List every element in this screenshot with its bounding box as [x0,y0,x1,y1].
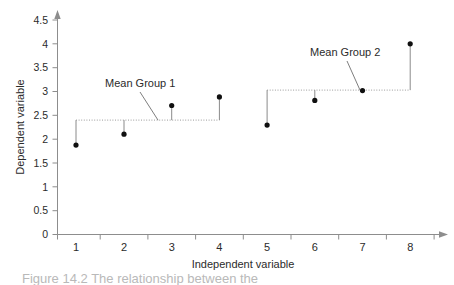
y-tick-label-0: 0 [42,228,48,240]
y-tick-marks [53,20,58,235]
data-point-8[interactable] [408,41,413,46]
annotation-leader-line-1 [140,92,158,120]
y-tick-label-1: 1 [42,181,48,193]
figure-caption: Figure 14.2 The relationship between the [22,271,258,285]
y-tick-label-4.5: 4.5 [33,14,48,26]
y-axis-title: Dependent variable [14,79,26,174]
chart-screenshot: 0 0.5 1 1.5 2 2.5 3 3.5 4 4.5 1 2 [0,0,454,285]
annotation-label-mean-group-1: Mean Group 1 [105,77,175,89]
y-tick-label-3: 3 [42,85,48,97]
data-point-2[interactable] [121,132,126,137]
data-point-4[interactable] [217,94,222,99]
x-tick-label-1: 1 [73,241,79,253]
y-tick-label-3.5: 3.5 [33,61,48,73]
data-point-3[interactable] [169,103,174,108]
annotation-mean-group-1: Mean Group 1 [105,77,175,120]
x-tick-label-5: 5 [264,241,270,253]
x-axis-title: Independent variable [192,258,295,270]
x-axis-arrow-icon [439,231,448,237]
y-axis-arrow-icon [54,10,60,19]
x-tick-label-4: 4 [216,241,222,253]
annotation-mean-group-2: Mean Group 2 [310,46,380,90]
x-tick-label-7: 7 [359,241,365,253]
x-tick-label-2: 2 [121,241,127,253]
y-tick-label-1.5: 1.5 [33,157,48,169]
y-tick-labels: 0 0.5 1 1.5 2 2.5 3 3.5 4 4.5 [33,14,48,240]
data-point-7[interactable] [360,88,365,93]
data-point-1[interactable] [73,143,78,148]
y-tick-label-0.5: 0.5 [33,204,48,216]
x-tick-label-6: 6 [312,241,318,253]
annotation-label-mean-group-2: Mean Group 2 [310,46,380,58]
data-point-5[interactable] [265,123,270,128]
x-axis [58,231,449,237]
x-tick-labels: 1 2 3 4 5 6 7 8 [73,241,413,253]
x-tick-marks [58,235,435,240]
x-tick-label-3: 3 [169,241,175,253]
data-point-6[interactable] [312,98,317,103]
x-tick-label-8: 8 [407,241,413,253]
y-tick-label-4: 4 [42,38,48,50]
annotation-leader-line-2 [347,61,360,90]
y-tick-label-2: 2 [42,133,48,145]
scatter-plot-figure: 0 0.5 1 1.5 2 2.5 3 3.5 4 4.5 1 2 [0,0,454,285]
y-tick-label-2.5: 2.5 [33,109,48,121]
